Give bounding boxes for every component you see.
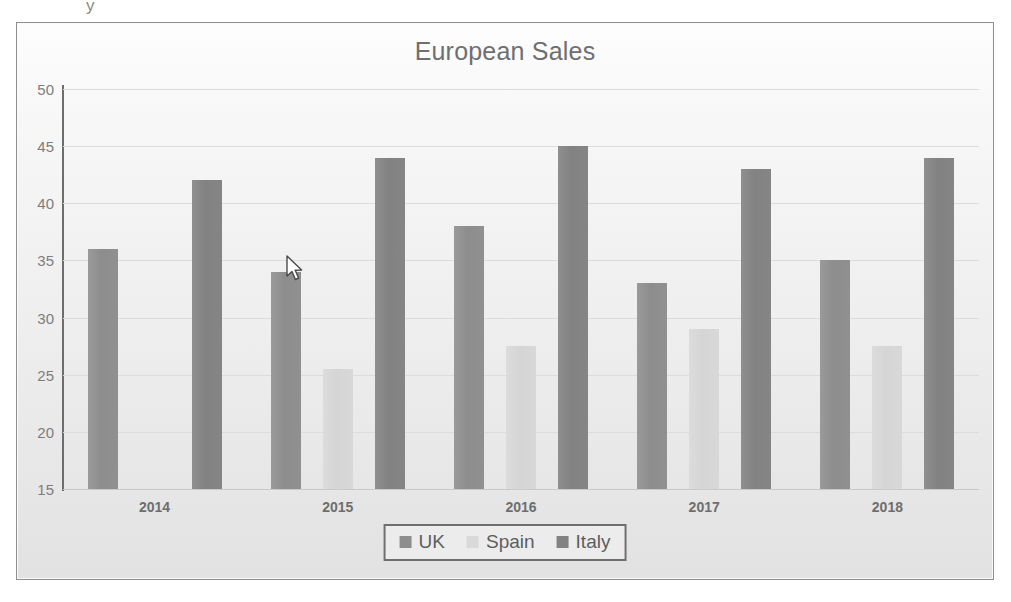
bar-italy-2014[interactable]: [192, 180, 222, 489]
bar-spain-2016[interactable]: [506, 346, 536, 489]
x-axis-tick-label: 2018: [872, 499, 903, 515]
y-axis-tick-label: 25: [37, 366, 54, 383]
chart-container: European Sales 1520253035404550 20142015…: [16, 22, 994, 580]
legend-item-uk[interactable]: UK: [400, 531, 445, 553]
bar-group-2015: [246, 89, 429, 489]
bar-group-2017: [613, 89, 796, 489]
legend-label: Italy: [576, 531, 611, 553]
bar-spain-2018[interactable]: [872, 346, 902, 489]
bar-group-2016: [429, 89, 612, 489]
y-axis-tick-label: 40: [37, 195, 54, 212]
y-axis-tick-label: 35: [37, 252, 54, 269]
bars-layer: [63, 89, 979, 489]
y-axis-tick-label: 45: [37, 138, 54, 155]
scan-artifact-glyph: y: [86, 0, 95, 16]
bar-italy-2015[interactable]: [375, 158, 405, 489]
bar-uk-2014[interactable]: [88, 249, 118, 489]
bar-italy-2018[interactable]: [924, 158, 954, 489]
plot-area: 1520253035404550 20142015201620172018: [63, 89, 979, 489]
legend-label: UK: [419, 531, 445, 553]
bar-uk-2016[interactable]: [454, 226, 484, 489]
x-axis-tick-label: 2014: [139, 499, 170, 515]
bar-spain-2015[interactable]: [323, 369, 353, 489]
legend-swatch-icon: [467, 536, 479, 548]
bar-italy-2016[interactable]: [558, 146, 588, 489]
y-axis-tick-label: 50: [37, 81, 54, 98]
bar-group-2018: [796, 89, 979, 489]
legend-item-italy[interactable]: Italy: [557, 531, 611, 553]
x-axis-tick-label: 2016: [505, 499, 536, 515]
bar-italy-2017[interactable]: [741, 169, 771, 489]
y-axis-tick-label: 15: [37, 481, 54, 498]
bar-uk-2017[interactable]: [637, 283, 667, 489]
chart-title: European Sales: [17, 37, 993, 66]
x-axis-tick-label: 2017: [689, 499, 720, 515]
bar-uk-2015[interactable]: [271, 272, 301, 489]
gridline-15: [63, 489, 979, 490]
bar-spain-2017[interactable]: [689, 329, 719, 489]
legend-label: Spain: [486, 531, 535, 553]
x-axis-tick-label: 2015: [322, 499, 353, 515]
bar-uk-2018[interactable]: [820, 260, 850, 489]
y-axis-tick-label: 30: [37, 309, 54, 326]
legend-item-spain[interactable]: Spain: [467, 531, 535, 553]
legend-swatch-icon: [400, 536, 412, 548]
legend-swatch-icon: [557, 536, 569, 548]
bar-group-2014: [63, 89, 246, 489]
y-axis-tick-label: 20: [37, 423, 54, 440]
chart-legend[interactable]: UKSpainItaly: [384, 524, 627, 561]
